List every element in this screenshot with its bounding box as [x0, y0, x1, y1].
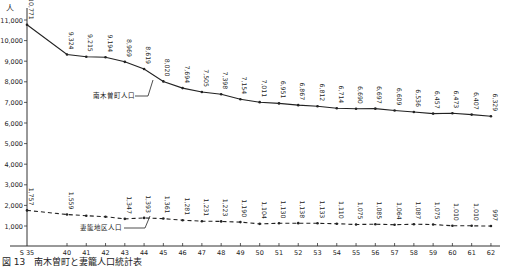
data-point: [220, 220, 223, 223]
data-label: 6,697: [376, 86, 383, 104]
x-tick-label: 57: [390, 249, 398, 257]
data-label: 7,505: [203, 69, 210, 87]
y-tick-label: 4,000: [4, 161, 23, 169]
data-label: 6,329: [492, 94, 499, 112]
y-tick-label: 5,000: [4, 140, 23, 148]
data-label: 1,347: [126, 196, 133, 214]
x-tick-label: 51: [275, 249, 283, 257]
data-point: [451, 224, 454, 227]
data-label: 6,457: [434, 91, 441, 109]
data-point: [393, 109, 396, 112]
y-tick-label: 10,000: [0, 37, 23, 45]
data-label: 6,609: [396, 88, 403, 106]
data-point: [490, 225, 493, 228]
data-point: [393, 223, 396, 226]
data-label: 6,867: [299, 82, 306, 100]
x-tick-label: 56: [371, 249, 379, 257]
data-point: [26, 23, 29, 26]
data-label: 9,215: [87, 34, 94, 52]
data-label: 6,812: [319, 84, 326, 102]
data-point: [124, 218, 127, 221]
data-label: 1,231: [203, 199, 210, 217]
data-point: [335, 107, 338, 110]
data-point: [278, 102, 281, 105]
data-label: 8,020: [164, 59, 171, 77]
x-tick-label: 60: [448, 249, 456, 257]
x-tick-label: 61: [468, 249, 476, 257]
data-label: 8,619: [145, 46, 152, 64]
x-tick-label: 50: [256, 249, 264, 257]
data-label: 1,110: [338, 201, 345, 219]
data-point: [451, 112, 454, 115]
data-label: 1,010: [473, 203, 480, 221]
nagiso-legend-label: 南木曽町人口: [93, 91, 135, 100]
y-tick-label: 2,000: [4, 202, 23, 210]
data-label: 6,407: [473, 92, 480, 110]
data-label: 7,398: [222, 71, 229, 89]
data-point: [316, 222, 319, 225]
data-point: [162, 217, 165, 220]
data-label: 1,757: [28, 188, 35, 206]
y-tick-label: 8,000: [4, 78, 23, 86]
data-label: 6,536: [415, 89, 422, 107]
data-label: 1,075: [434, 202, 441, 220]
x-tick-label: 58: [410, 249, 418, 257]
data-point: [258, 101, 261, 104]
nagiso-leader-line: [135, 80, 153, 96]
data-point: [201, 220, 204, 223]
data-label: 6,473: [453, 91, 460, 109]
data-point: [355, 223, 358, 226]
x-tick-label: 46: [178, 249, 186, 257]
data-label: 6,951: [280, 81, 287, 99]
x-tick-label: 62: [487, 249, 495, 257]
data-label: 7,154: [241, 77, 248, 95]
data-label: 1,393: [145, 195, 152, 213]
data-label: 7,694: [184, 65, 191, 83]
data-label: 1,559: [68, 192, 75, 210]
data-label: 1,064: [396, 202, 403, 220]
data-point: [201, 91, 204, 94]
y-tick-label: 9,000: [4, 58, 23, 66]
y-axis-unit: 人: [6, 4, 14, 13]
data-label: 1,010: [453, 203, 460, 221]
data-label: 1,104: [261, 201, 268, 219]
data-label: 9,324: [68, 32, 75, 50]
data-label: 10,771: [28, 0, 35, 20]
y-tick-label: 3,000: [4, 181, 23, 189]
data-point: [297, 104, 300, 107]
data-label: 997: [492, 209, 499, 221]
data-point: [316, 105, 319, 108]
data-point: [26, 209, 29, 212]
data-label: 1,130: [280, 201, 287, 219]
data-point: [297, 222, 300, 225]
x-tick-label: 45: [159, 249, 167, 257]
data-label: 9,194: [107, 34, 114, 52]
data-label: 7,011: [261, 79, 268, 97]
x-tick-label: 52: [294, 249, 302, 257]
data-label: 1,133: [319, 201, 326, 219]
y-tick-label: 7,000: [4, 99, 23, 107]
data-point: [258, 223, 261, 226]
data-point: [374, 107, 377, 110]
x-tick-label: 47: [198, 249, 206, 257]
data-point: [104, 215, 107, 218]
data-label: 1,281: [184, 197, 191, 215]
data-label: 1,190: [241, 199, 248, 217]
data-label: 1,223: [222, 199, 229, 217]
x-tick-label: 53: [313, 249, 321, 257]
figure-caption: 図 13 南木曽町と妻籠人口統計表: [2, 255, 142, 268]
y-tick-label: 6,000: [4, 120, 23, 128]
y-tick-label: 11,000: [0, 17, 23, 25]
data-point: [432, 223, 435, 226]
data-point: [143, 68, 146, 71]
data-labels: 10,7719,3249,2159,1948,9698,6198,0207,69…: [28, 0, 499, 221]
data-point: [162, 80, 165, 83]
x-tick-label: 54: [333, 249, 341, 257]
y-tick-label: 1,000: [4, 223, 23, 231]
data-label: 1,075: [357, 202, 364, 220]
data-point: [66, 213, 69, 216]
data-point: [374, 223, 377, 226]
chart-series: [26, 23, 493, 227]
data-point: [413, 111, 416, 114]
